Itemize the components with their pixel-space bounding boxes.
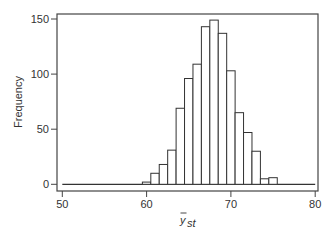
x-axis-title-sub: st xyxy=(187,217,197,229)
y-tick-label: 50 xyxy=(37,123,49,135)
histogram-bar xyxy=(151,173,159,184)
histogram-bar xyxy=(168,150,176,184)
histogram-bar xyxy=(210,20,218,184)
x-axis-title: y st xyxy=(179,213,197,229)
x-axis: 50607080 xyxy=(56,191,321,210)
histogram-bar xyxy=(235,113,243,185)
histogram-bar xyxy=(142,182,150,184)
x-tick-label: 50 xyxy=(56,198,68,210)
y-tick-label: 0 xyxy=(43,178,49,190)
histogram-bar xyxy=(227,71,235,185)
y-axis-title: Frequency xyxy=(12,76,24,128)
histogram-bar xyxy=(244,133,252,185)
histogram-bar xyxy=(159,164,167,184)
x-tick-label: 80 xyxy=(309,198,321,210)
histogram-bar xyxy=(269,178,277,185)
histogram-chart: 050100150 50607080 Frequency y st xyxy=(0,0,335,243)
x-tick-label: 70 xyxy=(225,198,237,210)
y-tick-label: 150 xyxy=(31,13,49,25)
y-axis: 050100150 xyxy=(31,13,57,190)
histogram-bar xyxy=(260,179,268,185)
x-axis-title-main: y xyxy=(179,214,187,226)
histogram-bar xyxy=(218,33,226,184)
histogram-bar xyxy=(201,27,209,185)
histogram-bar xyxy=(252,151,260,184)
histogram-bar xyxy=(193,64,201,184)
x-tick-label: 60 xyxy=(140,198,152,210)
y-tick-label: 100 xyxy=(31,68,49,80)
histogram-bars xyxy=(142,20,277,184)
histogram-bar xyxy=(185,79,193,185)
histogram-bar xyxy=(176,108,184,184)
